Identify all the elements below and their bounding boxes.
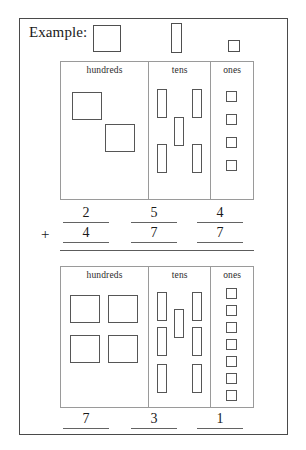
addend1-hundreds-digit: 2: [63, 204, 109, 223]
blocks-tens-top: [149, 78, 210, 199]
sum-divider-line: [60, 250, 254, 251]
place-value-table-addend2: hundreds tens ones: [60, 266, 254, 408]
ten-block: [192, 144, 202, 173]
hundred-block: [108, 295, 138, 323]
ten-block: [192, 89, 202, 118]
ten-block: [174, 309, 184, 338]
answer-hundreds-digit: 7: [63, 410, 109, 429]
addend2-row: + 4 7 7: [20, 224, 287, 244]
column-hundreds-bottom: hundreds: [61, 267, 149, 407]
addend1-row: 2 5 4: [20, 204, 287, 224]
page-title: Example:: [29, 24, 87, 41]
column-header-tens: tens: [149, 267, 210, 281]
ten-block: [157, 327, 167, 356]
addend1-ones-digit: 4: [197, 204, 243, 223]
one-block: [226, 322, 237, 333]
addend2-hundreds-digit: 4: [63, 224, 109, 243]
column-header-ones: ones: [211, 62, 253, 76]
answer-ones-digit: 1: [197, 410, 243, 429]
column-ones-bottom: ones: [211, 267, 253, 407]
blocks-ones-bottom: [211, 283, 253, 407]
ten-block: [192, 292, 202, 321]
place-value-table-addend1: hundreds tens ones: [60, 61, 254, 200]
answer-row: 7 3 1: [20, 410, 287, 430]
hundred-block: [72, 92, 102, 120]
one-block: [226, 373, 237, 384]
one-block: [226, 137, 237, 148]
ten-block: [192, 327, 202, 356]
one-block: [226, 305, 237, 316]
column-header-hundreds: hundreds: [61, 62, 148, 76]
worksheet-frame: Example: hundreds tens ones: [19, 18, 288, 435]
plus-sign: +: [41, 224, 49, 244]
legend-hundred-block-icon: [93, 25, 121, 52]
hundred-block: [70, 295, 100, 323]
legend-ten-block-icon: [171, 23, 182, 53]
column-ones-top: ones: [211, 62, 253, 199]
one-block: [226, 91, 237, 102]
one-block: [226, 288, 237, 299]
one-block: [226, 390, 237, 401]
addend1-tens-digit: 5: [131, 204, 177, 223]
ten-block: [157, 292, 167, 321]
column-header-hundreds: hundreds: [61, 267, 148, 281]
blocks-ones-top: [211, 78, 253, 199]
ten-block: [157, 144, 167, 173]
addend2-ones-digit: 7: [197, 224, 243, 243]
blocks-hundreds-top: [61, 78, 148, 199]
column-header-ones: ones: [211, 267, 253, 281]
legend-row: Example:: [20, 19, 287, 59]
ten-block: [157, 89, 167, 118]
legend-one-block-icon: [228, 40, 240, 52]
answer-tens-digit: 3: [131, 410, 177, 429]
blocks-hundreds-bottom: [61, 283, 148, 407]
column-header-tens: tens: [149, 62, 210, 76]
one-block: [226, 114, 237, 125]
blocks-tens-bottom: [149, 283, 210, 407]
hundred-block: [108, 335, 138, 363]
column-hundreds-top: hundreds: [61, 62, 149, 199]
ten-block: [174, 117, 184, 146]
column-tens-bottom: tens: [149, 267, 211, 407]
hundred-block: [105, 124, 135, 152]
column-tens-top: tens: [149, 62, 211, 199]
one-block: [226, 356, 237, 367]
ten-block: [157, 364, 167, 393]
hundred-block: [70, 335, 100, 363]
ten-block: [192, 364, 202, 393]
one-block: [226, 339, 237, 350]
addend2-tens-digit: 7: [131, 224, 177, 243]
one-block: [226, 160, 237, 171]
